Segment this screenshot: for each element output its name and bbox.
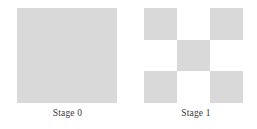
stage-1-cell-r0c1 [177,8,210,40]
fractal-stages-figure: Stage 0 Stage 1 [0,0,257,129]
stage-0-square [17,8,117,103]
stage-0-caption: Stage 0 [0,107,135,120]
stage-1-cell-r1c2 [210,40,243,72]
stage-1-cell-r0c2 [210,8,243,40]
stage-1-cell-r2c0 [144,71,177,103]
stage-1-cell-r1c1 [177,40,210,72]
stage-1-cell-r2c1 [177,71,210,103]
stage-1-cell-r1c0 [144,40,177,72]
stage-1-caption: Stage 1 [135,107,257,120]
stage-0-panel: Stage 0 [0,0,135,129]
stage-1-cell-r0c0 [144,8,177,40]
stage-1-panel: Stage 1 [135,0,257,129]
stage-1-grid [144,8,243,103]
stage-1-cell-r2c2 [210,71,243,103]
